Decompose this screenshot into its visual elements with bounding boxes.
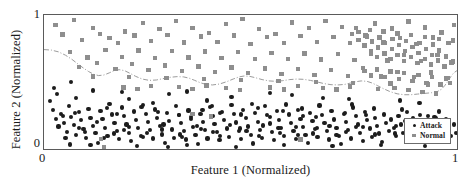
legend: Attack Normal bbox=[404, 118, 451, 144]
normal-point bbox=[431, 42, 435, 46]
attack-point bbox=[291, 129, 295, 133]
normal-point bbox=[419, 59, 423, 63]
attack-point bbox=[361, 139, 365, 143]
attack-point bbox=[122, 128, 126, 132]
normal-point bbox=[398, 36, 402, 40]
normal-point bbox=[121, 85, 125, 89]
legend-label-attack: Attack bbox=[419, 121, 442, 131]
normal-point bbox=[381, 40, 385, 44]
normal-point bbox=[334, 87, 338, 91]
normal-point bbox=[410, 79, 414, 83]
attack-point bbox=[270, 130, 274, 134]
normal-point bbox=[257, 27, 261, 31]
attack-point bbox=[361, 125, 365, 129]
attack-point bbox=[423, 144, 427, 148]
normal-point bbox=[403, 49, 407, 53]
normal-point bbox=[379, 74, 383, 78]
attack-point bbox=[74, 133, 78, 137]
normal-point bbox=[410, 45, 414, 49]
normal-point bbox=[203, 49, 207, 53]
attack-point bbox=[165, 111, 169, 115]
attack-point bbox=[330, 144, 334, 148]
attack-point bbox=[65, 130, 69, 134]
normal-point bbox=[416, 51, 420, 55]
attack-point bbox=[167, 119, 171, 123]
normal-point bbox=[123, 29, 127, 33]
attack-point bbox=[334, 126, 338, 130]
attack-point bbox=[54, 117, 58, 121]
attack-point bbox=[346, 128, 350, 132]
attack-point bbox=[370, 135, 374, 139]
attack-point bbox=[287, 112, 291, 116]
attack-point bbox=[172, 136, 176, 140]
attack-point bbox=[229, 95, 233, 99]
attack-point bbox=[161, 122, 165, 126]
normal-point bbox=[430, 75, 434, 79]
attack-point bbox=[379, 143, 383, 147]
attack-point bbox=[132, 109, 136, 113]
normal-point bbox=[204, 83, 208, 87]
attack-point bbox=[185, 143, 189, 147]
attack-point bbox=[279, 126, 283, 130]
normal-point bbox=[60, 32, 64, 36]
normal-point bbox=[362, 43, 366, 47]
attack-point bbox=[251, 141, 255, 145]
attack-point bbox=[163, 141, 167, 145]
y-axis-label: Feature 2 (Normalized) bbox=[9, 20, 24, 160]
attack-point bbox=[167, 92, 171, 96]
normal-point bbox=[53, 23, 57, 27]
attack-point bbox=[93, 131, 97, 135]
normal-point bbox=[429, 70, 433, 74]
normal-point bbox=[331, 35, 335, 39]
plot-area: Attack Normal bbox=[43, 14, 458, 150]
attack-point bbox=[394, 124, 398, 128]
normal-point bbox=[424, 81, 428, 85]
attack-point bbox=[88, 116, 92, 120]
attack-point bbox=[306, 141, 310, 145]
attack-point bbox=[344, 130, 348, 134]
attack-point bbox=[253, 111, 257, 115]
attack-point bbox=[301, 125, 305, 129]
attack-point bbox=[418, 113, 422, 117]
attack-point bbox=[257, 134, 261, 138]
attack-point bbox=[281, 109, 285, 113]
attack-point bbox=[189, 115, 193, 119]
normal-point bbox=[368, 28, 372, 32]
normal-point bbox=[209, 114, 213, 118]
attack-point bbox=[399, 122, 403, 126]
normal-point bbox=[415, 61, 419, 65]
legend-item-normal: Normal bbox=[409, 131, 445, 141]
attack-point bbox=[69, 115, 73, 119]
normal-point bbox=[102, 145, 106, 149]
normal-point bbox=[381, 29, 385, 33]
normal-point bbox=[438, 82, 442, 86]
normal-point bbox=[336, 52, 340, 56]
attack-point bbox=[272, 138, 276, 142]
attack-point bbox=[344, 120, 348, 124]
normal-point bbox=[269, 51, 273, 55]
attack-point bbox=[72, 123, 76, 127]
attack-point bbox=[294, 137, 298, 141]
normal-point bbox=[279, 72, 283, 76]
attack-point bbox=[325, 129, 329, 133]
normal-point bbox=[116, 41, 120, 45]
attack-point bbox=[67, 104, 71, 108]
attack-point bbox=[153, 107, 157, 111]
attack-point bbox=[195, 124, 199, 128]
attack-point bbox=[199, 127, 203, 131]
attack-point bbox=[191, 125, 195, 129]
normal-point bbox=[434, 91, 438, 95]
attack-point bbox=[284, 102, 288, 106]
normal-point bbox=[323, 19, 327, 23]
normal-point bbox=[80, 38, 84, 42]
attack-point bbox=[48, 99, 52, 103]
normal-point bbox=[388, 69, 392, 73]
normal-point bbox=[423, 25, 427, 29]
attack-point bbox=[382, 112, 386, 116]
attack-point bbox=[81, 127, 85, 131]
attack-point bbox=[282, 143, 286, 147]
normal-point bbox=[276, 79, 280, 83]
normal-point bbox=[127, 75, 131, 79]
attack-point bbox=[246, 124, 250, 128]
normal-point bbox=[99, 137, 103, 141]
